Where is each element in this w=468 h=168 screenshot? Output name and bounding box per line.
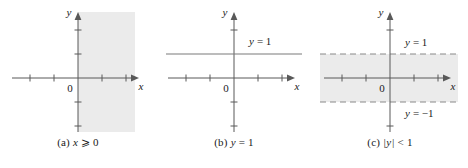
graph-c: y x 0 y= 1 y= −1 (312, 4, 468, 132)
label-y-equals-1-var: y (248, 35, 254, 47)
shaded-region-a (78, 12, 135, 132)
caption-a-rest: ⩾ 0 (81, 136, 99, 148)
caption-b: (b) y = 1 (156, 136, 312, 148)
caption-a: (a) x ⩾ 0 (0, 136, 156, 149)
panel-a: y x 0 (a) x ⩾ 0 (0, 0, 156, 168)
label-y-equals-1: y= 1 (404, 36, 427, 48)
label-y-equals-minus-1-rest: = −1 (413, 107, 434, 119)
label-y-equals-minus-1: y= −1 (404, 107, 434, 119)
origin-label: 0 (67, 82, 73, 94)
caption-c-rest: < 1 (398, 136, 413, 148)
y-axis-arrow-b (231, 12, 238, 20)
label-y-equals-1-rest: = 1 (257, 35, 271, 47)
panel-b: y x 0 y= 1 (b) y = 1 (156, 0, 312, 168)
caption-b-rest: = 1 (239, 136, 254, 148)
label-y-equals-minus-1-var: y (404, 107, 410, 119)
origin-label: 0 (379, 82, 385, 94)
x-axis-label: x (450, 80, 456, 92)
origin-label: 0 (223, 82, 229, 94)
x-axis-label: x (138, 80, 144, 92)
graph-a: y x 0 (0, 4, 156, 132)
figure-three-regions: y x 0 (a) x ⩾ 0 (0, 0, 468, 168)
plot-c: y x 0 y= 1 y= −1 (312, 4, 468, 132)
y-axis-label: y (222, 6, 228, 18)
caption-a-variable: x (73, 136, 78, 148)
graph-b: y x 0 y= 1 (156, 4, 312, 132)
label-y-equals-1-rest: = 1 (413, 36, 427, 48)
label-y-equals-1: y= 1 (248, 35, 271, 47)
label-y-equals-1-var: y (404, 36, 410, 48)
caption-c-variable: |y| (383, 136, 395, 148)
caption-b-prefix: (b) (214, 136, 227, 148)
plot-a: y x 0 (0, 4, 156, 132)
y-axis-arrow-c (387, 12, 394, 20)
y-axis-label: y (66, 6, 72, 18)
caption-c-prefix: (c) (367, 136, 380, 148)
plot-b: y x 0 y= 1 (156, 4, 312, 132)
y-axis-label: y (378, 6, 384, 18)
caption-a-prefix: (a) (57, 136, 70, 148)
caption-b-variable: y (231, 136, 236, 148)
panel-c: y x 0 y= 1 y= −1 (c) |y| < 1 (312, 0, 468, 168)
caption-c: (c) |y| < 1 (312, 136, 468, 148)
x-axis-label: x (294, 80, 300, 92)
